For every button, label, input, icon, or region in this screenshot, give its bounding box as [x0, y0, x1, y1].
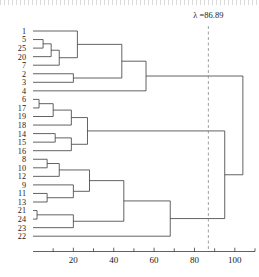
x-axis-tick-label: 40: [109, 255, 119, 265]
dendrogram-link: [33, 50, 59, 65]
dendrogram-link: [33, 164, 59, 177]
dendrogram-link: [33, 201, 170, 236]
dendrogram-link: [33, 211, 37, 220]
dendrogram-link: [33, 159, 47, 168]
dendrogram-link: [33, 138, 71, 151]
dendrogram-link: [33, 61, 146, 91]
dendrogram-link: [33, 104, 53, 117]
dendrogram-link: [146, 76, 243, 175]
lambda-cut-label: λ =86.89: [193, 10, 223, 20]
x-axis-tick-label: 80: [190, 255, 200, 265]
dendrogram-link: [33, 44, 51, 57]
dendrogram-link: [33, 110, 71, 125]
dendrogram-link: [33, 193, 47, 202]
dendrogram-figure: 1525207234617191814151681012911132124232…: [0, 0, 259, 277]
dendrogram-link: [33, 99, 39, 108]
dendrogram-link: [59, 170, 89, 191]
dendrogram-plot: 1525207234617191814151681012911132124232…: [0, 0, 259, 277]
leaf-label: 22: [18, 232, 26, 241]
dendrogram-link: [71, 118, 87, 145]
x-axis-tick-label: 20: [69, 255, 79, 265]
dendrogram-link: [33, 134, 55, 143]
dendrogram-link: [73, 181, 123, 222]
dendrogram-links: [33, 31, 243, 236]
x-axis-tick-label: 60: [150, 255, 160, 265]
dendrogram-link: [33, 185, 73, 198]
x-axis-tick-label: 100: [228, 255, 242, 265]
dendrogram-link: [73, 44, 121, 78]
dendrogram-link: [33, 40, 43, 49]
dendrogram-link: [87, 131, 224, 219]
dendrogram-link: [33, 215, 73, 228]
dendrogram-link: [33, 31, 77, 58]
dendrogram-link: [33, 74, 73, 83]
